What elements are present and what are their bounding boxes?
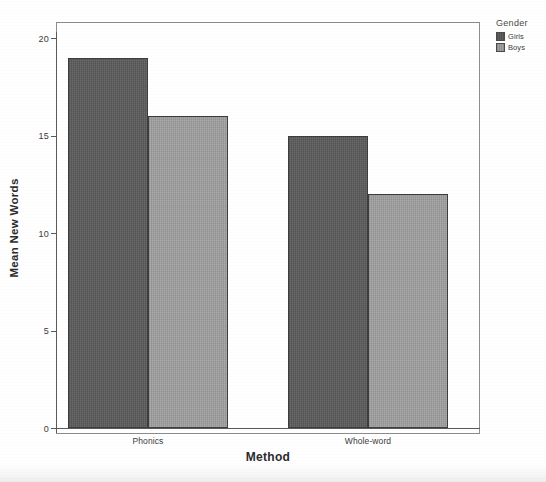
bar-phonics-boys[interactable] [148, 116, 228, 428]
bar-chart-figure: 20151050 Mean New Words Method Phonics W… [0, 0, 546, 482]
plot-axes: 20151050 [56, 22, 480, 434]
y-tick-5: 5 [56, 331, 57, 332]
y-tick-mark [51, 136, 56, 137]
y-tick-mark [51, 428, 56, 429]
y-tick-label: 15 [39, 131, 49, 141]
y-tick-10: 10 [56, 233, 57, 234]
legend: Gender Girls Boys [496, 18, 546, 54]
scan-edge-shadow [0, 464, 546, 482]
y-tick-label: 10 [39, 229, 49, 239]
legend-label-girls: Girls [508, 32, 524, 41]
legend-item-girls[interactable]: Girls [496, 32, 546, 41]
legend-label-boys: Boys [508, 43, 525, 52]
bar-whole-word-girls[interactable] [288, 136, 368, 429]
x-axis-line [56, 428, 480, 429]
y-tick-mark [51, 331, 56, 332]
x-category-label-phonics: Phonics [88, 436, 208, 446]
x-axis-title: Method [56, 450, 480, 464]
legend-title: Gender [496, 18, 546, 28]
legend-swatch-boys-icon [496, 43, 505, 52]
y-tick-15: 15 [56, 136, 57, 137]
y-tick-20: 20 [56, 38, 57, 39]
x-category-label-whole-word: Whole-word [308, 436, 428, 446]
y-tick-0: 0 [56, 428, 57, 429]
y-tick-label: 20 [39, 34, 49, 44]
y-tick-mark [51, 233, 56, 234]
bar-whole-word-boys[interactable] [368, 194, 448, 428]
legend-item-boys[interactable]: Boys [496, 43, 546, 52]
y-tick-label: 0 [44, 424, 49, 434]
y-tick-label: 5 [44, 326, 49, 336]
y-axis-title: Mean New Words [8, 178, 20, 277]
legend-swatch-girls-icon [496, 32, 505, 41]
y-tick-mark [51, 38, 56, 39]
bar-phonics-girls[interactable] [68, 58, 148, 429]
